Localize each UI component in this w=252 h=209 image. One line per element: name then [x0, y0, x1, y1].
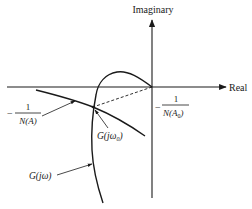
neg-inv-na0-denominator-main: N(A — [162, 108, 178, 118]
neg-inv-na-numerator: 1 — [26, 102, 31, 112]
neg-inverse-describing-function-line — [36, 90, 145, 136]
intersection-point — [92, 106, 95, 109]
nyquist-diagram: Imaginary Real − 1 N(A) − 1 N(A0) G(jω0)… — [0, 0, 252, 209]
neg-inv-na0-denominator-close: ) — [180, 108, 184, 118]
imaginary-axis-label: Imaginary — [132, 4, 173, 15]
g-jw0-main: G(jω — [97, 131, 117, 142]
neg-inv-na-label: − 1 N(A) — [7, 102, 41, 126]
g-jw-pointer-arrow — [57, 164, 92, 175]
real-axis-label: Real — [229, 82, 248, 93]
neg-inv-na0-label: − 1 N(A0) — [155, 94, 189, 119]
neg-inv-na0-denominator: N(A0) — [162, 108, 184, 119]
neg-inv-na0-sign: − — [155, 102, 161, 113]
g-jw-label: G(jω) — [29, 171, 52, 182]
g-jw0-label: G(jω0) — [97, 131, 123, 142]
g-jw0-close: ) — [118, 131, 122, 142]
neg-inv-na-sign: − — [7, 108, 13, 119]
neg-inv-na-denominator: N(A) — [18, 116, 37, 126]
dashed-ray-to-intersection — [93, 87, 152, 107]
neg-inv-na0-numerator: 1 — [174, 94, 179, 104]
neg-inv-na-pointer-arrow — [42, 101, 75, 116]
